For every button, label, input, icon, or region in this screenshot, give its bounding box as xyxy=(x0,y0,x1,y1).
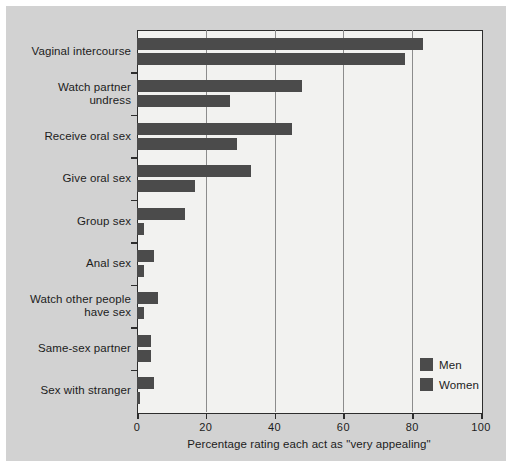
y-label-line: Sex with stranger xyxy=(11,384,131,397)
chart-figure: Vaginal intercourseWatch partnerundressR… xyxy=(0,0,514,473)
y-label-line: have sex xyxy=(11,306,131,319)
y-label-line: Group sex xyxy=(11,215,131,228)
y-axis-label-2: Receive oral sex xyxy=(11,130,131,143)
x-tick-80 xyxy=(412,413,414,419)
bar-women-0 xyxy=(137,53,405,65)
x-tick-label-40: 40 xyxy=(255,421,295,433)
x-tick-100 xyxy=(481,413,483,419)
y-tick-5 xyxy=(131,242,137,244)
x-tick-40 xyxy=(275,413,277,419)
y-axis-label-8: Sex with stranger xyxy=(11,384,131,397)
bar-men-7 xyxy=(137,335,151,347)
bar-men-4 xyxy=(137,208,185,220)
bar-women-7 xyxy=(137,350,151,362)
legend-label-men: Men xyxy=(439,359,462,371)
chart-panel: Vaginal intercourseWatch partnerundressR… xyxy=(6,6,506,461)
y-label-line: Anal sex xyxy=(11,257,131,270)
y-label-line: Give oral sex xyxy=(11,172,131,185)
y-axis-label-0: Vaginal intercourse xyxy=(11,45,131,58)
bar-women-6 xyxy=(137,307,144,319)
legend-item-men: Men xyxy=(420,358,490,371)
bar-women-8 xyxy=(137,392,140,404)
y-axis-label-4: Group sex xyxy=(11,215,131,228)
y-tick-1 xyxy=(131,72,137,74)
y-label-line: Watch other people xyxy=(11,293,131,306)
x-tick-0 xyxy=(137,413,139,419)
y-tick-8 xyxy=(131,370,137,372)
bar-women-1 xyxy=(137,95,230,107)
x-axis-title: Percentage rating each act as "very appe… xyxy=(137,438,481,450)
bar-women-5 xyxy=(137,265,144,277)
y-label-line: Same-sex partner xyxy=(11,342,131,355)
legend-label-women: Women xyxy=(439,379,479,391)
y-tick-7 xyxy=(131,327,137,329)
bar-men-2 xyxy=(137,123,292,135)
bar-men-3 xyxy=(137,165,251,177)
y-tick-3 xyxy=(131,157,137,159)
y-axis-label-6: Watch other peoplehave sex xyxy=(11,293,131,319)
y-label-line: undress xyxy=(11,94,131,107)
bar-men-5 xyxy=(137,250,154,262)
legend-item-women: Women xyxy=(420,378,490,391)
x-tick-20 xyxy=(206,413,208,419)
y-tick-6 xyxy=(131,285,137,287)
y-label-line: Vaginal intercourse xyxy=(11,45,131,58)
bar-men-1 xyxy=(137,80,302,92)
y-label-line: Watch partner xyxy=(11,81,131,94)
y-axis-labels: Vaginal intercourseWatch partnerundressR… xyxy=(6,30,131,412)
x-tick-label-60: 60 xyxy=(323,421,363,433)
legend-swatch-men xyxy=(420,358,433,371)
bars-group xyxy=(137,30,481,412)
legend-swatch-women xyxy=(420,378,433,391)
bar-men-8 xyxy=(137,377,154,389)
y-axis-label-7: Same-sex partner xyxy=(11,342,131,355)
y-axis-label-5: Anal sex xyxy=(11,257,131,270)
x-tick-60 xyxy=(343,413,345,419)
x-tick-label-20: 20 xyxy=(186,421,226,433)
x-tick-label-0: 0 xyxy=(117,421,157,433)
x-tick-label-80: 80 xyxy=(392,421,432,433)
y-label-line: Receive oral sex xyxy=(11,130,131,143)
chart-legend: Men Women xyxy=(420,358,490,398)
y-tick-2 xyxy=(131,115,137,117)
y-axis-label-1: Watch partnerundress xyxy=(11,81,131,107)
bar-women-3 xyxy=(137,180,195,192)
y-axis-label-3: Give oral sex xyxy=(11,172,131,185)
y-tick-4 xyxy=(131,200,137,202)
x-tick-label-100: 100 xyxy=(461,421,501,433)
bar-men-0 xyxy=(137,38,423,50)
bar-men-6 xyxy=(137,292,158,304)
bar-women-4 xyxy=(137,223,144,235)
bar-women-2 xyxy=(137,138,237,150)
